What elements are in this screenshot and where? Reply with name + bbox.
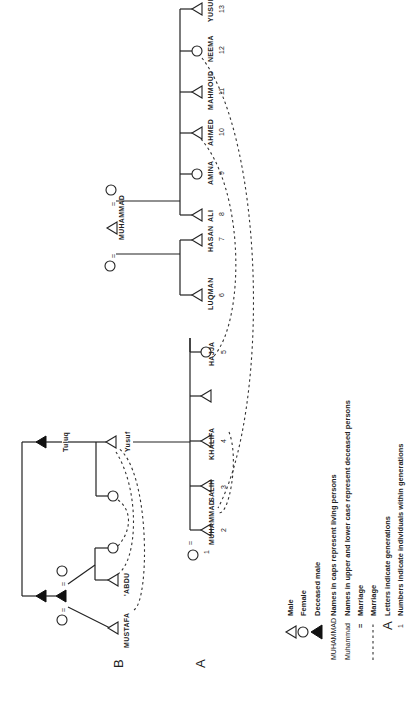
deceased-male-icon <box>36 436 46 448</box>
name-a-6: LUQMAN <box>207 277 215 310</box>
legend-eq-symbol: = <box>356 623 365 628</box>
female-icon <box>108 491 118 501</box>
svg-text:8: 8 <box>218 212 225 216</box>
legend: Male Female Deceased male MUHAMMAD Names… <box>286 400 405 660</box>
female-icon <box>192 169 202 179</box>
svg-text:3: 3 <box>220 485 227 489</box>
legend-caps-text: Names in caps represent living persons <box>329 474 338 616</box>
legend-female-icon <box>298 627 308 637</box>
female-icon <box>57 615 67 625</box>
male-icon <box>201 390 211 402</box>
name-a-4: KHALIFA <box>208 428 215 460</box>
female-icon <box>192 46 202 56</box>
legend-letters-text: Letters indicate generations <box>383 516 392 616</box>
svg-text:13: 13 <box>218 5 225 13</box>
name-a-3: SALIH <box>208 480 215 503</box>
female-icon <box>57 566 67 576</box>
svg-text:=: = <box>60 608 67 612</box>
male-icon <box>107 222 117 234</box>
marriage-arc <box>218 432 233 513</box>
name-mustafa: MUSTAFA <box>123 613 130 648</box>
name-a-7: HASAN <box>207 226 214 252</box>
kinship-diagram: B A Tuluq = = 'ABDU MUSTAFA Yusuf 1 = <box>0 0 409 702</box>
legend-deceased: Deceased male <box>313 562 322 616</box>
male-icon <box>192 209 202 221</box>
generation-label-a: A <box>193 659 208 668</box>
svg-text:=: = <box>110 202 117 206</box>
female-icon <box>108 543 118 553</box>
svg-text:=: = <box>110 254 117 258</box>
name-a-11: MAHMOUD <box>207 71 214 110</box>
name-abdu: 'ABDU <box>123 573 130 596</box>
svg-text:=: = <box>60 582 67 586</box>
svg-text:6: 6 <box>218 293 225 297</box>
male-icon <box>192 3 202 15</box>
legend-numbers-text: Numbers indicate individuals within gene… <box>396 443 405 616</box>
legend-deceased-male-icon <box>311 625 322 639</box>
svg-text:4: 4 <box>220 439 227 443</box>
name-a-5: HAJJA <box>208 342 215 366</box>
name-a-12: NEEMA <box>207 35 214 62</box>
male-icon <box>192 127 202 139</box>
generation-label-b: B <box>111 659 126 668</box>
male-icon <box>192 86 202 98</box>
svg-text:2: 2 <box>220 528 227 532</box>
legend-letter-symbol: A <box>380 621 395 630</box>
name-yusuf-b: Yusuf <box>124 431 131 452</box>
legend-lower-example: Muhammad <box>344 623 351 660</box>
svg-text:12: 12 <box>218 46 225 54</box>
name-a-8: ALI <box>207 210 214 222</box>
svg-text:10: 10 <box>218 128 225 136</box>
deceased-male-icon <box>56 590 66 602</box>
legend-female: Female <box>299 590 308 616</box>
svg-text:=: = <box>187 541 194 545</box>
male-icon <box>192 289 202 301</box>
legend-caps-example: MUHAMMAD <box>330 618 337 660</box>
name-a-10: AHMED <box>207 119 214 146</box>
female-icon <box>106 185 116 195</box>
male-icon <box>108 622 118 634</box>
individual-number: 1 <box>203 550 210 554</box>
svg-text:7: 7 <box>218 237 225 241</box>
name-a-13: YUSUF <box>207 0 214 22</box>
legend-male: Male <box>286 599 295 616</box>
legend-lower-text: Names in upper and lower case represent … <box>343 400 352 616</box>
legend-dash-text: Marriage <box>369 585 378 616</box>
female-icon <box>105 261 115 271</box>
male-icon <box>192 234 202 246</box>
name-a-9: AMINA <box>207 161 214 185</box>
legend-male-icon <box>286 626 296 638</box>
legend-eq-text: Marriage <box>356 585 365 616</box>
svg-text:5: 5 <box>220 350 227 354</box>
svg-text:9: 9 <box>218 171 225 175</box>
name-parent-muhammad: MUHAMMAD <box>118 195 125 240</box>
legend-number-symbol: 1 <box>397 624 404 628</box>
male-icon <box>106 436 116 448</box>
name-a-2: MUHAMMAD <box>208 500 215 545</box>
female-icon <box>188 550 198 560</box>
male-icon <box>108 574 118 586</box>
deceased-male-icon <box>36 590 46 602</box>
